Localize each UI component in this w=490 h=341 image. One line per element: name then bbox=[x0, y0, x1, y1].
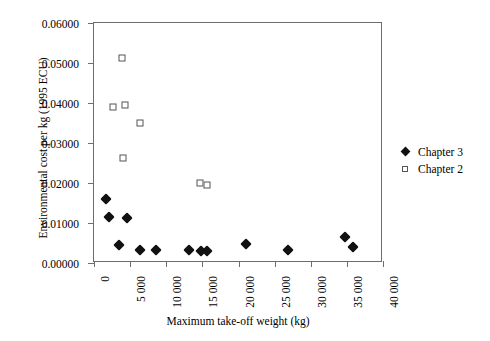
x-axis-tick-label: 15 000 bbox=[207, 276, 219, 308]
x-axis-tick-label: 30 000 bbox=[316, 276, 328, 308]
open-square-icon bbox=[398, 166, 412, 172]
x-axis-tick-label: 10 000 bbox=[171, 276, 183, 308]
data-point bbox=[119, 54, 126, 61]
y-axis-tick-label: 0.01000 bbox=[42, 218, 79, 230]
data-point bbox=[104, 212, 115, 223]
y-axis-tick-label: 0.02000 bbox=[42, 178, 79, 190]
y-axis-tick: 0.06000 bbox=[88, 23, 94, 24]
x-axis-tick: 20 000 bbox=[239, 261, 240, 267]
x-axis-tick: 35 000 bbox=[347, 261, 348, 267]
x-axis-tick-label: 35 000 bbox=[352, 276, 364, 308]
data-point bbox=[203, 181, 210, 188]
x-axis-tick: 30 000 bbox=[311, 261, 312, 267]
y-axis-tick: 0.03000 bbox=[88, 143, 94, 144]
x-axis-tick: 15 000 bbox=[202, 261, 203, 267]
data-point bbox=[282, 244, 293, 255]
x-axis-tick-label: 40 000 bbox=[388, 276, 400, 308]
x-axis-tick-label: 25 000 bbox=[280, 276, 292, 308]
data-point bbox=[202, 245, 213, 256]
data-point bbox=[150, 244, 161, 255]
x-axis-tick: 10 000 bbox=[166, 261, 167, 267]
data-point bbox=[135, 244, 146, 255]
data-point bbox=[122, 213, 133, 224]
data-point bbox=[122, 102, 129, 109]
y-axis-tick: 0.04000 bbox=[88, 103, 94, 104]
data-point bbox=[340, 232, 351, 243]
x-axis-tick: 40 000 bbox=[383, 261, 384, 267]
x-axis-tick-label: 20 000 bbox=[244, 276, 256, 308]
data-point bbox=[137, 119, 144, 126]
y-axis-tick-label: 0.00000 bbox=[42, 258, 79, 270]
y-axis-tick: 0.01000 bbox=[88, 223, 94, 224]
y-axis-tick-label: 0.06000 bbox=[42, 18, 79, 30]
filled-diamond-icon bbox=[398, 148, 412, 155]
y-axis-tick-label: 0.03000 bbox=[42, 138, 79, 150]
x-axis-tick: 25 000 bbox=[275, 261, 276, 267]
data-point bbox=[101, 193, 112, 204]
chart-legend: Chapter 3Chapter 2 bbox=[398, 143, 463, 177]
legend-entry: Chapter 2 bbox=[398, 160, 463, 177]
data-point bbox=[347, 241, 358, 252]
data-point bbox=[184, 244, 195, 255]
legend-label: Chapter 2 bbox=[418, 163, 463, 175]
data-point bbox=[119, 155, 126, 162]
data-point bbox=[109, 104, 116, 111]
x-axis-tick-label: 5 000 bbox=[135, 276, 147, 302]
x-axis-title: Maximum take-off weight (kg) bbox=[93, 315, 383, 327]
y-axis-tick-label: 0.04000 bbox=[42, 98, 79, 110]
y-axis-tick: 0.05000 bbox=[88, 63, 94, 64]
legend-label: Chapter 3 bbox=[418, 146, 463, 158]
x-axis-tick: 5 000 bbox=[130, 261, 131, 267]
data-point bbox=[113, 240, 124, 251]
data-point bbox=[240, 238, 251, 249]
scatter-chart-figure: Environmental cost per kg (1995 ECU) Max… bbox=[0, 0, 490, 341]
x-axis-tick: 0 bbox=[94, 261, 95, 267]
plot-area: 0.000000.010000.020000.030000.040000.050… bbox=[93, 22, 382, 262]
x-axis-tick-label: 0 bbox=[99, 276, 111, 282]
y-axis-tick: 0.02000 bbox=[88, 183, 94, 184]
y-axis-tick-label: 0.05000 bbox=[42, 58, 79, 70]
legend-entry: Chapter 3 bbox=[398, 143, 463, 160]
